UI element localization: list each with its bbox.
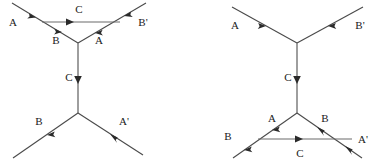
right-line-A-in [232,7,297,43]
right-line-Bprime-out [297,7,363,43]
right-label-C-propagator: C [284,71,291,83]
right-label-Bprime-out: B' [355,19,364,31]
right-label-A-in: A [231,19,239,31]
right-label-B-internal: B [321,112,328,124]
right-diagram-svg: A B' C B A [0,0,375,163]
right-arrow-C-bottom [295,135,303,142]
right-arrow-Aprime-out [345,146,353,155]
right-label-B-in: B [224,130,231,142]
right-line-B-in [233,113,297,158]
right-label-Aprime-out: A' [358,133,368,145]
right-line-Aprime-out [297,113,362,158]
right-arrow-B-internal [317,127,325,136]
figure-canvas: A B' C B A [0,0,375,163]
right-label-A-internal: A [268,112,276,124]
right-arrow-C-propagator [293,76,301,84]
right-label-C-bottom: C [296,147,303,159]
right-diagram: A B' C B A [0,0,375,163]
right-line-C-propagator [293,43,301,113]
